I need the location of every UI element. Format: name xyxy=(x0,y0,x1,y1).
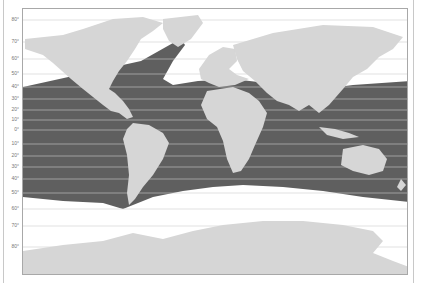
latitude-label: 30° xyxy=(1,163,19,169)
latitude-label: 60° xyxy=(1,205,19,211)
latitude-label: 50° xyxy=(1,189,19,195)
map-canvas xyxy=(23,9,408,275)
latitude-label: 40° xyxy=(1,83,19,89)
latitude-label: 70° xyxy=(1,222,19,228)
latitude-label: 10° xyxy=(1,116,19,122)
latitude-label: 80° xyxy=(1,16,19,22)
latitude-label: 80° xyxy=(1,243,19,249)
latitude-label: 20° xyxy=(1,106,19,112)
latitude-label: 10° xyxy=(1,140,19,146)
latitude-label: 40° xyxy=(1,175,19,181)
latitude-label: 30° xyxy=(1,95,19,101)
latitude-label: 70° xyxy=(1,38,19,44)
world-map xyxy=(22,8,408,275)
latitude-label: 0° xyxy=(1,126,19,132)
antarctica xyxy=(23,221,408,275)
latitude-label: 60° xyxy=(1,55,19,61)
outer-border-right xyxy=(413,0,414,283)
latitude-label: 20° xyxy=(1,152,19,158)
latitude-label: 50° xyxy=(1,70,19,76)
